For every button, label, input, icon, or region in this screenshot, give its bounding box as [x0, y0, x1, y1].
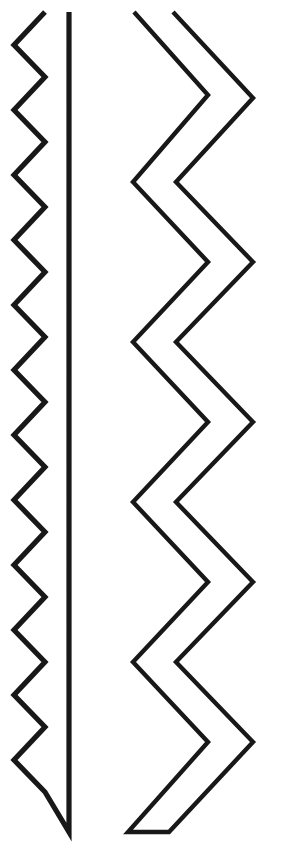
figure-canvas [0, 0, 282, 861]
zigzag-figure-svg [0, 0, 282, 861]
